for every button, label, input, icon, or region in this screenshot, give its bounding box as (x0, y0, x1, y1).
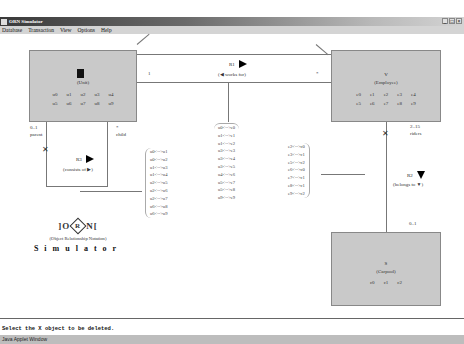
window-title: ORN Simulator (9, 19, 43, 24)
pair-item[interactable]: u4<-->e6 (218, 171, 235, 179)
menu-view[interactable]: View (60, 27, 72, 33)
pair-item[interactable]: e6<-->c0 (288, 166, 305, 174)
pair-item[interactable]: u5<-->e8 (218, 186, 235, 194)
menu-transaction[interactable]: Transaction (28, 27, 54, 33)
logo-product: Simulator (30, 244, 126, 253)
pair-item[interactable]: u6<-->u9 (150, 210, 167, 218)
object-unit[interactable]: (Unit) u0 u1 u2 u3 u4 u5 u6 u7 u8 u9 (29, 50, 137, 122)
pair-item[interactable]: u0<-->u1 (150, 148, 167, 156)
r2-pair-list: e2<-->c0 e3<-->c1 e5<-->c2 e6<-->c0 e7<-… (288, 143, 310, 198)
pair-item[interactable]: u2<-->u7 (150, 195, 167, 203)
instance[interactable]: e8 (397, 101, 402, 106)
menu-help[interactable]: Help (101, 27, 112, 33)
pair-item[interactable]: e7<-->c1 (288, 174, 305, 182)
app-icon (1, 19, 7, 25)
pair-item[interactable]: e9<-->c2 (288, 190, 305, 198)
instance[interactable]: e2 (384, 92, 389, 97)
minimize-button[interactable]: _ (442, 18, 448, 24)
window-controls: _ □ × (442, 18, 462, 24)
menu-bar: Database Transaction View Options Help (0, 26, 464, 34)
pair-item[interactable]: u1<-->u3 (150, 164, 167, 172)
instance[interactable]: e7 (384, 101, 389, 106)
instance[interactable]: c2 (397, 280, 402, 285)
r3-line-bottom (46, 186, 108, 187)
pair-item[interactable]: u5<-->e7 (218, 179, 235, 187)
r1-line-bottom (137, 82, 332, 83)
instance[interactable]: c1 (384, 280, 389, 285)
pair-item[interactable]: e8<-->c1 (288, 182, 305, 190)
instance[interactable]: u6 (67, 101, 72, 106)
title-bar: ORN Simulator _ □ × (0, 17, 464, 26)
instance[interactable]: e3 (397, 92, 402, 97)
r2-cross-icon: ✕ (382, 129, 389, 138)
pair-item[interactable]: e5<-->c2 (288, 159, 305, 167)
instance[interactable]: u2 (81, 92, 86, 97)
r2-card-bottom: 0..1 (409, 221, 417, 226)
r1-diag-left (137, 34, 150, 45)
instance[interactable]: c0 (370, 280, 375, 285)
direction-down-icon (417, 171, 425, 179)
instance[interactable]: u7 (81, 101, 86, 106)
pair-item[interactable]: e3<-->c1 (288, 151, 305, 159)
r2-role-top: riders (410, 131, 421, 136)
r3-role-child: child (116, 132, 126, 137)
instance[interactable]: e5 (356, 101, 361, 106)
maximize-button[interactable]: □ (449, 18, 455, 24)
r2-line (386, 122, 387, 232)
menu-options[interactable]: Options (78, 27, 95, 33)
instance[interactable]: e6 (370, 101, 375, 106)
direction-right-icon (86, 155, 94, 163)
object-employee-label: (Employee) (332, 80, 440, 85)
r3-cross-icon: ✕ (42, 145, 49, 154)
close-button[interactable]: × (456, 18, 462, 24)
instance[interactable]: e4 (411, 92, 416, 97)
diagram-canvas[interactable]: (Unit) u0 u1 u2 u3 u4 u5 u6 u7 u8 u9 V (… (0, 35, 464, 317)
pair-item[interactable]: u3<-->e5 (218, 163, 235, 171)
instance[interactable]: u5 (53, 101, 58, 106)
pair-item[interactable]: e2<-->c0 (288, 143, 305, 151)
r3-pair-list: u0<-->u1 u0<-->u2 u1<-->u3 u1<-->u4 u2<-… (145, 148, 167, 218)
object-employee-name: V (332, 72, 440, 77)
r1-pair-list: u0<-->e0 u1<-->e1 u1<-->e2 u3<-->e3 u3<-… (214, 123, 239, 202)
applet-window-bar: Java Applet Window (0, 335, 464, 344)
instance[interactable]: u0 (53, 92, 58, 97)
pair-item[interactable]: u1<-->e1 (218, 132, 235, 140)
pair-item[interactable]: u2<-->u6 (150, 187, 167, 195)
pair-item[interactable]: u6<-->u8 (150, 203, 167, 211)
pair-item[interactable]: u3<-->e4 (218, 155, 235, 163)
pair-item[interactable]: u2<-->u5 (150, 179, 167, 187)
r3-role-parent: parent (30, 132, 43, 137)
instance[interactable]: e9 (411, 101, 416, 106)
object-carpool[interactable]: S (Carpool) c0 c1 c2 (331, 232, 441, 306)
diamond-icon: R (70, 218, 87, 235)
r3-reading: (consists of ▶) (63, 166, 93, 172)
r2-reading: (belongs to ▼) (393, 182, 423, 187)
r2-link-left (321, 174, 365, 175)
r2-name[interactable]: R2 (407, 171, 425, 179)
r3-card-child: * (116, 125, 119, 130)
pair-item[interactable]: u0<-->u2 (150, 156, 167, 164)
menu-database[interactable]: Database (2, 27, 22, 33)
object-carpool-instances: c0 c1 c2 (332, 280, 440, 285)
r2-card-top: 2..15 (410, 124, 420, 129)
r3-card-parent: 0..1 (30, 125, 38, 130)
instance[interactable]: e1 (370, 92, 375, 97)
object-employee[interactable]: V (Employee) e0 e1 e2 e3 e4 e5 e6 e7 e8 … (331, 50, 441, 122)
object-carpool-label: (Carpool) (332, 269, 440, 274)
r1-name[interactable]: R1 (229, 60, 247, 68)
instance[interactable]: u1 (67, 92, 72, 97)
r3-name[interactable]: R3 (76, 155, 94, 163)
instance[interactable]: e0 (356, 92, 361, 97)
r3-line-parent (46, 122, 47, 187)
pair-item[interactable]: u9<-->e9 (218, 194, 235, 202)
instance[interactable]: u8 (95, 101, 100, 106)
pair-item[interactable]: u0<-->e0 (218, 124, 235, 132)
pair-item[interactable]: u3<-->e3 (218, 147, 235, 155)
r1-card-left: 1 (148, 71, 151, 76)
orn-mark: ]O R N[ (30, 220, 126, 232)
pair-item[interactable]: u1<-->u4 (150, 171, 167, 179)
instance[interactable]: u3 (95, 92, 100, 97)
instance[interactable]: u4 (109, 92, 114, 97)
pair-item[interactable]: u1<-->e2 (218, 140, 235, 148)
instance[interactable]: u9 (109, 101, 114, 106)
